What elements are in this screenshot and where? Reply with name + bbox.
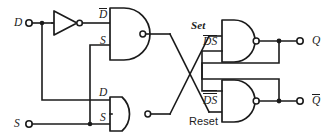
- dbar-wire-label: D: [99, 9, 107, 21]
- inverter-triangle: [54, 11, 77, 35]
- nand-bottom-bubble-icon: [145, 111, 151, 117]
- d-input-terminal[interactable]: [26, 20, 32, 26]
- nand-bottom-body: [110, 97, 130, 131]
- set-label: Set: [191, 20, 205, 31]
- circuit-schematic: [0, 0, 326, 133]
- ds-bottom-s-double-overbar: S: [211, 95, 217, 107]
- ds-top-d-overbar: D: [203, 36, 211, 48]
- circuit-diagram-canvas: D S D S D S Set Reset DS DS Q Q: [0, 0, 326, 133]
- q-output-label: Q: [312, 35, 320, 47]
- nand-bottom-s-label: S: [100, 112, 106, 124]
- s-input-label: S: [14, 118, 20, 130]
- nand-set-body: [222, 20, 255, 62]
- nand-reset-body: [222, 80, 255, 122]
- nand-set-bubble-icon: [253, 38, 259, 44]
- d-input-label: D: [14, 17, 22, 29]
- nand-top-bubble-icon: [140, 31, 146, 37]
- qbar-output-label: Q: [312, 95, 320, 107]
- s-input-terminal[interactable]: [26, 121, 32, 127]
- nand-bottom-input-gate: [110, 92, 170, 134]
- ds-bottom-d-double-overbar: D: [203, 95, 211, 107]
- nand-bottom-d-label: D: [99, 87, 107, 99]
- nand-set-gate: [209, 20, 303, 62]
- ds-top-label: DS: [203, 36, 217, 48]
- inverter-bubble-icon: [77, 20, 83, 26]
- reset-label: Reset: [189, 116, 218, 127]
- nand-reset-bubble-icon: [253, 98, 259, 104]
- qbar-output-terminal[interactable]: [297, 98, 303, 104]
- q-output-terminal[interactable]: [297, 38, 303, 44]
- d-input-net: [26, 20, 110, 100]
- nand-top-input-gate: [110, 8, 170, 60]
- qbar-overbar: Q: [312, 95, 320, 107]
- dbar-overbar: D: [99, 9, 107, 21]
- ds-bottom-label: DS: [203, 95, 217, 107]
- nand-top-s-label: S: [100, 35, 106, 47]
- ds-top-s-overbar: S: [211, 36, 217, 48]
- nand-reset-gate: [209, 80, 303, 122]
- s-input-net: [26, 45, 110, 127]
